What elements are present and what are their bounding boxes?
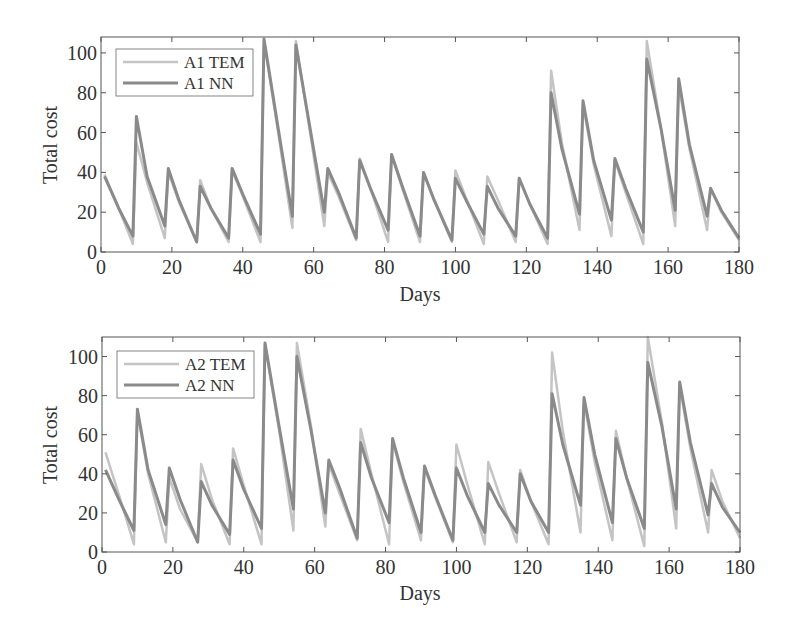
y-tick-label: 40 (77, 161, 97, 183)
legend-top: A1 TEM A1 NN (116, 49, 253, 96)
chart-canvas: 020406080100120140160180020406080100 A1 … (0, 0, 797, 617)
x-tick-label: 160 (654, 556, 684, 578)
legend-label-tem: A1 TEM (184, 53, 245, 72)
x-tick-label: 180 (725, 556, 755, 578)
x-axis-label: Days (399, 283, 440, 306)
legend-label-nn: A1 NN (184, 74, 234, 93)
x-tick-label: 60 (304, 256, 324, 278)
x-tick-label: 180 (724, 256, 754, 278)
x-tick-label: 100 (441, 556, 471, 578)
x-tick-label: 0 (97, 556, 107, 578)
y-axis-label: Total cost (39, 406, 61, 484)
x-tick-label: 20 (162, 256, 182, 278)
legend-label-nn: A2 NN (185, 376, 235, 395)
y-tick-label: 60 (78, 424, 98, 446)
x-axis-label: Days (399, 582, 440, 605)
x-tick-label: 140 (583, 556, 613, 578)
x-tick-label: 40 (233, 256, 253, 278)
x-tick-label: 80 (376, 556, 396, 578)
x-tick-label: 120 (511, 256, 541, 278)
y-tick-label: 100 (67, 42, 97, 64)
x-tick-label: 20 (163, 556, 183, 578)
y-tick-label: 0 (88, 541, 98, 563)
y-tick-label: 0 (87, 241, 97, 263)
x-tick-label: 40 (234, 556, 254, 578)
y-tick-label: 100 (68, 346, 98, 368)
x-tick-label: 60 (305, 556, 325, 578)
legend-label-tem: A2 TEM (185, 355, 246, 374)
y-tick-label: 40 (78, 463, 98, 485)
x-tick-label: 80 (375, 256, 395, 278)
y-tick-label: 80 (77, 82, 97, 104)
x-tick-label: 160 (653, 256, 683, 278)
y-tick-label: 20 (77, 201, 97, 223)
x-tick-label: 120 (512, 556, 542, 578)
x-tick-label: 0 (96, 256, 106, 278)
panel-top: 020406080100120140160180020406080100 A1 … (39, 37, 754, 306)
x-tick-label: 100 (440, 256, 470, 278)
y-tick-label: 80 (78, 385, 98, 407)
y-axis-label: Total cost (39, 106, 61, 184)
x-tick-label: 140 (582, 256, 612, 278)
y-tick-label: 20 (78, 502, 98, 524)
figure: 020406080100120140160180020406080100 A1 … (0, 0, 797, 617)
panel-bottom: 020406080100120140160180020406080100 A2 … (39, 337, 755, 605)
y-tick-label: 60 (77, 122, 97, 144)
legend-bottom: A2 TEM A2 NN (117, 351, 254, 398)
